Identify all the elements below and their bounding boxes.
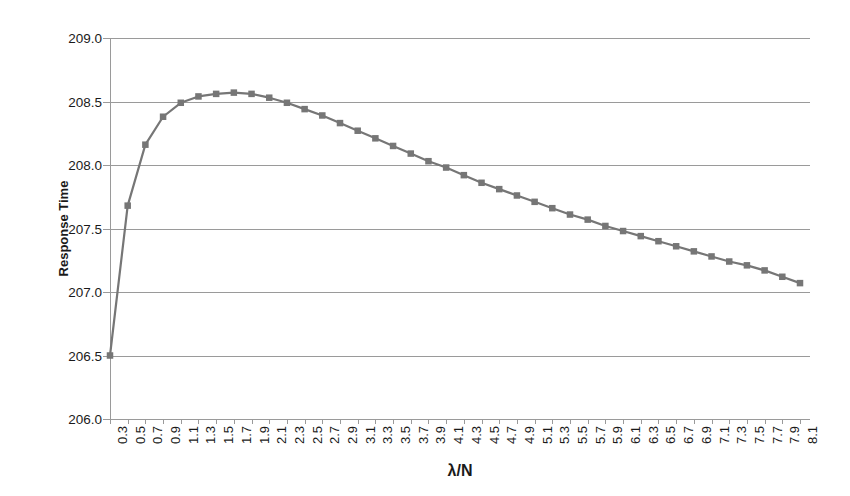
x-axis-tick-label: 6.7 bbox=[681, 426, 696, 444]
x-axis-tick bbox=[499, 419, 500, 424]
y-axis-tick-label: 209.0 bbox=[50, 31, 102, 46]
data-point-marker bbox=[248, 91, 255, 98]
x-axis-tick bbox=[729, 419, 730, 424]
data-point-marker bbox=[284, 100, 291, 107]
x-axis-tick-label: 5.1 bbox=[540, 426, 555, 444]
x-axis-tick-label: 2.1 bbox=[274, 426, 289, 444]
series-line bbox=[110, 93, 800, 356]
data-point-marker bbox=[301, 106, 308, 113]
y-axis-tick-label: 208.5 bbox=[50, 94, 102, 109]
data-point-marker bbox=[602, 223, 609, 230]
data-point-marker bbox=[461, 172, 468, 179]
data-point-marker bbox=[425, 158, 432, 165]
x-axis-tick-label: 1.1 bbox=[186, 426, 201, 444]
data-point-marker bbox=[231, 89, 238, 96]
x-axis-tick bbox=[588, 419, 589, 424]
data-point-marker bbox=[337, 120, 344, 127]
x-axis-tick-label: 0.9 bbox=[168, 426, 183, 444]
x-axis-tick-label: 4.1 bbox=[451, 426, 466, 444]
data-point-marker bbox=[708, 253, 715, 260]
x-axis-tick-label: 3.9 bbox=[433, 426, 448, 444]
x-axis-tick-label: 0.7 bbox=[150, 426, 165, 444]
x-axis-tick bbox=[747, 419, 748, 424]
data-point-marker bbox=[160, 113, 167, 120]
y-axis-tick-label: 206.5 bbox=[50, 348, 102, 363]
x-axis-tick-label: 7.1 bbox=[717, 426, 732, 444]
data-point-marker bbox=[408, 150, 415, 157]
data-point-marker bbox=[567, 211, 574, 218]
data-point-marker bbox=[584, 216, 591, 223]
x-axis-tick bbox=[322, 419, 323, 424]
data-point-marker bbox=[673, 243, 680, 250]
x-axis-tick-label: 7.5 bbox=[752, 426, 767, 444]
data-point-marker bbox=[797, 280, 804, 287]
data-point-marker bbox=[195, 93, 202, 100]
data-point-marker bbox=[142, 141, 149, 148]
x-axis-tick bbox=[252, 419, 253, 424]
x-axis-tick-label: 1.9 bbox=[257, 426, 272, 444]
x-axis-tick-label: 3.5 bbox=[398, 426, 413, 444]
x-axis-tick-label: 6.5 bbox=[663, 426, 678, 444]
data-point-marker bbox=[531, 199, 538, 206]
data-point-marker bbox=[213, 91, 220, 98]
x-axis-tick bbox=[676, 419, 677, 424]
x-axis-tick-label: 7.7 bbox=[770, 426, 785, 444]
x-axis-tick bbox=[411, 419, 412, 424]
x-axis-tick bbox=[358, 419, 359, 424]
series-response-time bbox=[110, 38, 810, 419]
x-axis-tick bbox=[198, 419, 199, 424]
y-axis-tick bbox=[103, 419, 110, 420]
x-axis-tick-label: 1.3 bbox=[203, 426, 218, 444]
x-axis-tick bbox=[570, 419, 571, 424]
x-axis-tick bbox=[110, 419, 111, 424]
plot-area bbox=[110, 38, 810, 419]
y-axis-tick bbox=[103, 292, 110, 293]
data-point-marker bbox=[514, 192, 521, 199]
x-axis-tick-label: 2.7 bbox=[327, 426, 342, 444]
x-axis-tick bbox=[163, 419, 164, 424]
x-axis-tick-label: 0.5 bbox=[133, 426, 148, 444]
y-axis-tick-label: 206.0 bbox=[50, 412, 102, 427]
x-axis-tick-label: 5.7 bbox=[593, 426, 608, 444]
data-point-marker bbox=[124, 202, 131, 209]
x-axis-tick bbox=[446, 419, 447, 424]
chart-container: Response Time 209.0208.5208.0207.5207.02… bbox=[0, 0, 850, 496]
data-point-marker bbox=[372, 135, 379, 142]
x-axis-tick-label: 3.1 bbox=[363, 426, 378, 444]
y-axis-tick bbox=[103, 229, 110, 230]
x-axis-tick-label: 7.3 bbox=[734, 426, 749, 444]
x-axis-tick-label: 6.3 bbox=[646, 426, 661, 444]
x-axis-tick bbox=[145, 419, 146, 424]
x-axis-title: λ/N bbox=[110, 462, 810, 480]
x-axis-tick-label: 5.9 bbox=[610, 426, 625, 444]
data-point-marker bbox=[478, 180, 485, 187]
data-point-marker bbox=[107, 352, 114, 359]
x-axis-tick bbox=[552, 419, 553, 424]
x-axis-tick-label: 6.9 bbox=[699, 426, 714, 444]
x-axis-tick bbox=[535, 419, 536, 424]
x-axis-tick-label: 2.3 bbox=[292, 426, 307, 444]
x-axis-tick bbox=[517, 419, 518, 424]
x-axis-tick-label: 4.3 bbox=[469, 426, 484, 444]
x-axis-tick-label: 1.5 bbox=[221, 426, 236, 444]
x-axis-tick bbox=[464, 419, 465, 424]
x-axis-tick-label: 5.5 bbox=[575, 426, 590, 444]
x-axis-tick-label: 3.3 bbox=[380, 426, 395, 444]
data-point-marker bbox=[390, 143, 397, 150]
x-axis-tick bbox=[128, 419, 129, 424]
x-axis-tick bbox=[765, 419, 766, 424]
data-point-marker bbox=[266, 94, 273, 101]
y-axis-tick bbox=[103, 165, 110, 166]
x-axis-tick-label: 4.9 bbox=[522, 426, 537, 444]
data-point-marker bbox=[354, 127, 361, 133]
data-point-marker bbox=[620, 228, 627, 235]
x-axis-tick bbox=[216, 419, 217, 424]
x-axis-tick-label: 4.7 bbox=[504, 426, 519, 444]
x-axis-tick bbox=[712, 419, 713, 424]
x-axis-tick bbox=[375, 419, 376, 424]
y-axis-tick-label: 207.5 bbox=[50, 221, 102, 236]
x-axis-tick-label: 0.3 bbox=[115, 426, 130, 444]
data-point-marker bbox=[779, 274, 786, 281]
gridline bbox=[110, 419, 810, 420]
x-axis-tick bbox=[393, 419, 394, 424]
